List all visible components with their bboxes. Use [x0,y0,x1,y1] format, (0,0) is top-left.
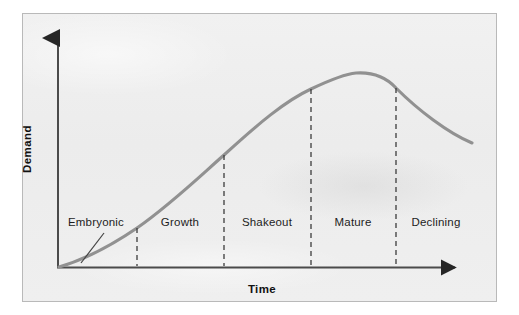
embryonic-callout-line [81,233,104,263]
stage-label-embryonic: Embryonic [68,216,124,228]
demand-curve [59,73,472,267]
stage-label-declining: Declining [411,216,460,228]
stage-label-shakeout: Shakeout [242,216,292,228]
x-axis-title: Time [248,283,276,295]
stage-label-mature: Mature [335,216,372,228]
stage-label-growth: Growth [161,216,199,228]
chart-canvas [0,0,519,315]
industry-life-cycle-figure: Demand Time Embryonic Growth Shakeout Ma… [0,0,519,315]
y-axis-title: Demand [21,125,33,173]
